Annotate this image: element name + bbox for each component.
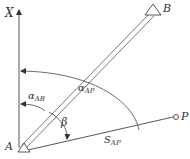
line-ap: [28, 117, 173, 150]
survey-diagram: [0, 0, 190, 159]
alpha-ab-label: αAB: [28, 91, 45, 103]
point-b-label: B: [163, 3, 171, 14]
alpha-ap-label: αAP: [78, 83, 95, 95]
point-p-label: P: [181, 111, 188, 122]
line-ab: [22, 13, 154, 148]
point-a-label: A: [5, 141, 13, 152]
x-axis-label: X: [5, 7, 14, 19]
station-a-icon: [18, 143, 30, 152]
beta-label: β: [61, 117, 67, 128]
point-p-icon: [174, 115, 179, 120]
distance-sap-label: SAP: [104, 135, 121, 147]
arc-alpha-ab: [21, 104, 45, 111]
station-b-icon: [145, 4, 161, 15]
